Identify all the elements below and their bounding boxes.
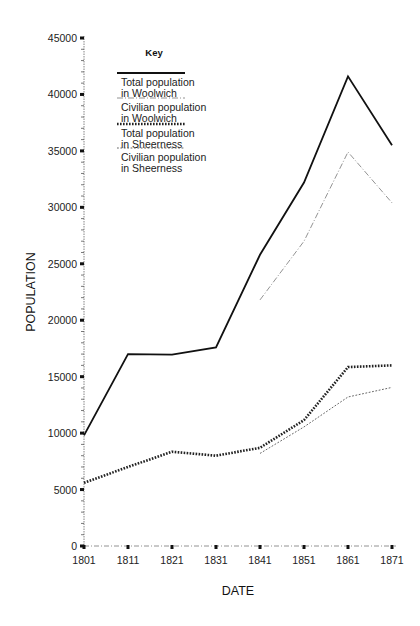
legend-label: in Sheerness xyxy=(121,162,182,174)
x-tick-label: 1871 xyxy=(380,554,404,566)
legend-title: Key xyxy=(145,47,163,58)
y-major-tick xyxy=(80,319,84,322)
x-tick-label: 1821 xyxy=(160,554,184,566)
population-chart: 0500010000150002000025000300003500040000… xyxy=(0,0,420,626)
y-tick-label: 5000 xyxy=(54,484,78,496)
y-major-tick xyxy=(80,206,84,209)
x-major-tick xyxy=(127,545,130,549)
y-tick-label: 20000 xyxy=(48,314,77,326)
legend-label: in Woolwich xyxy=(121,87,177,99)
x-major-tick xyxy=(259,545,262,549)
y-tick-label: 45000 xyxy=(48,32,77,44)
y-tick-label: 10000 xyxy=(48,427,77,439)
series-civilian-population-in-sheerness xyxy=(260,387,392,453)
legend-label: in Woolwich xyxy=(121,112,177,124)
x-tick-label: 1811 xyxy=(117,554,140,566)
x-tick-label: 1841 xyxy=(248,554,272,566)
x-tick-label: 1851 xyxy=(292,554,316,566)
series-line xyxy=(260,387,392,453)
y-axis-title: POPULATION xyxy=(24,252,38,332)
y-major-tick xyxy=(80,93,84,96)
y-major-tick xyxy=(80,432,84,435)
legend-entry: Total populationin Sheerness xyxy=(117,124,195,150)
x-axis-title: DATE xyxy=(222,584,254,598)
y-major-tick xyxy=(80,488,84,491)
series-line xyxy=(84,365,392,482)
series-total-population-in-sheerness xyxy=(84,365,392,482)
y-tick-label: 30000 xyxy=(48,201,77,213)
y-tick-label: 0 xyxy=(71,540,77,552)
y-tick-label: 35000 xyxy=(48,145,77,157)
series-civilian-population-in-woolwich xyxy=(260,152,392,300)
x-major-tick xyxy=(171,545,174,549)
legend: Key Total populationin WoolwichCivilian … xyxy=(117,47,206,174)
y-tick-label: 25000 xyxy=(48,258,77,270)
x-major-tick xyxy=(83,545,86,549)
x-tick-label: 1801 xyxy=(72,554,96,566)
y-tick-label: 40000 xyxy=(48,88,77,100)
legend-entry: Civilian populationin Sheerness xyxy=(117,148,206,174)
y-major-tick xyxy=(80,149,84,152)
x-tick-label: 1831 xyxy=(204,554,228,566)
y-tick-label: 15000 xyxy=(48,371,77,383)
x-major-tick xyxy=(215,545,218,549)
x-major-tick xyxy=(303,545,306,549)
x-major-tick xyxy=(347,545,350,549)
y-major-tick xyxy=(80,262,84,265)
x-major-tick xyxy=(391,545,394,549)
y-major-tick xyxy=(80,375,84,378)
legend-entry: Civilian populationin Woolwich xyxy=(117,98,206,124)
legend-entry: Total populationin Woolwich xyxy=(117,73,195,99)
x-tick-label: 1861 xyxy=(336,554,360,566)
x-axis: 18011811182118311841185118611871 xyxy=(72,545,404,566)
y-major-tick xyxy=(80,37,84,40)
y-axis: 0500010000150002000025000300003500040000… xyxy=(48,32,84,552)
series-line xyxy=(260,152,392,300)
